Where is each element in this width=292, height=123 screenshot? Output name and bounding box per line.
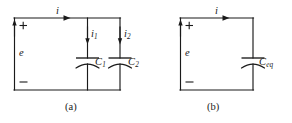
circuit-a-current-arrowhead-right-icon [64, 15, 71, 20]
circuit-b-group [178, 15, 264, 90]
circuit-a-capacitor-c2-subscript: 2 [135, 61, 139, 69]
circuit-b-source-arrowhead-up-icon [178, 19, 182, 25]
circuit-a-source-label: e [19, 48, 24, 59]
circuit-a-current-label: i [56, 6, 59, 17]
circuit-a-source-arrowhead-up-icon [12, 19, 16, 25]
circuit-b-plus-sign-icon [186, 22, 194, 30]
circuit-a-capacitor-c2-base: C [128, 56, 135, 67]
circuit-a-capacitor-c2-label: C2 [128, 57, 139, 68]
circuit-a-caption: (a) [65, 101, 77, 112]
circuit-a-i1-arrowhead-down-icon [85, 38, 89, 44]
circuit-a-capacitor-c1-subscript: 1 [102, 61, 106, 69]
circuit-b-capacitor-ceq-label: Ceq [259, 57, 273, 68]
circuit-a-i2-arrowhead-down-icon [118, 38, 122, 44]
circuit-a-branch2-current-label: i2 [124, 29, 131, 40]
circuit-a-branch1-current-subscript: 1 [94, 33, 98, 41]
figure-root: i e i1 i2 C1 C2 (a) i e Ceq (b) [0, 0, 292, 123]
circuit-b-caption: (b) [207, 101, 219, 112]
circuit-b-current-arrowhead-right-icon [223, 15, 230, 20]
circuit-a-capacitor-c1-label: C1 [95, 57, 106, 68]
circuit-a-branch1-current-label: i1 [91, 29, 98, 40]
circuit-a-branch2-current-subscript: 2 [127, 33, 131, 41]
circuit-a-plus-sign-icon [20, 22, 28, 30]
circuit-b-source-label: e [185, 48, 190, 59]
circuit-b-capacitor-ceq-subscript: eq [266, 61, 273, 69]
circuit-b-current-label: i [215, 6, 218, 17]
circuit-a-capacitor-c1-base: C [95, 56, 102, 67]
circuit-b-capacitor-ceq-base: C [259, 56, 266, 67]
circuit-a-group [12, 15, 131, 90]
circuit-schematic-canvas [0, 0, 292, 123]
